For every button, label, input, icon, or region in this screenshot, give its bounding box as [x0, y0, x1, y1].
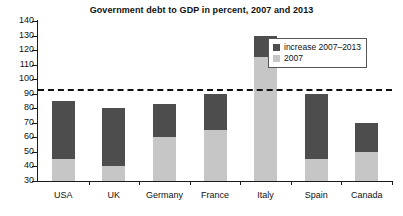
bar-segment-increase [52, 101, 75, 159]
chart-title: Government debt to GDP in percent, 2007 … [0, 5, 403, 15]
x-axis-label-germany: Germany [146, 190, 183, 200]
legend-item-label: 2007 [284, 53, 303, 64]
x-axis-line [37, 181, 393, 182]
x-axis-tick-mark [341, 181, 342, 185]
y-axis-tick-mark [32, 166, 37, 167]
y-axis-tick-label: 120 [0, 44, 34, 54]
y-axis-tick-label: 140 [0, 15, 34, 25]
y-axis-tick-mark [32, 21, 37, 22]
x-axis-tick-mark [190, 181, 191, 185]
y-axis-tick-label: 40 [0, 160, 34, 170]
bar-usa [52, 101, 75, 181]
bar-segment-increase [102, 108, 125, 166]
y-axis-tick-label: 90 [0, 88, 34, 98]
y-axis-tick-label: 130 [0, 30, 34, 40]
y-axis-tick-label: 100 [0, 73, 34, 83]
bar-segment-2007 [204, 130, 227, 181]
bar-segment-increase [305, 94, 328, 159]
bar-germany [153, 104, 176, 181]
bar-canada [355, 123, 378, 181]
y-axis-tick-mark [32, 65, 37, 66]
x-axis-label-canada: Canada [351, 190, 383, 200]
bar-france [204, 94, 227, 181]
y-axis-tick-label: 80 [0, 102, 34, 112]
bar-segment-2007 [153, 137, 176, 181]
x-axis-tick-mark [89, 181, 90, 185]
bar-segment-2007 [355, 152, 378, 181]
x-axis-label-usa: USA [54, 190, 73, 200]
legend-item-label: increase 2007–2013 [284, 42, 361, 53]
y-axis-tick-mark [32, 181, 37, 182]
legend-swatch-icon [273, 44, 280, 51]
x-axis-label-spain: Spain [305, 190, 328, 200]
y-axis-tick-mark [32, 108, 37, 109]
x-axis-tick-mark [291, 181, 292, 185]
y-axis-tick-label: 30 [0, 175, 34, 185]
bar-uk [102, 108, 125, 181]
bar-segment-2007 [52, 159, 75, 181]
legend-item: 2007 [273, 53, 361, 64]
y-axis-tick-label: 60 [0, 131, 34, 141]
x-axis-tick-mark [392, 181, 393, 185]
y-axis-tick-label: 110 [0, 59, 34, 69]
y-axis-tick-mark [32, 152, 37, 153]
y-axis-tick-label: 50 [0, 146, 34, 156]
legend-item: increase 2007–2013 [273, 42, 361, 53]
x-axis-label-uk: UK [108, 190, 121, 200]
chart-container: Government debt to GDP in percent, 2007 … [0, 0, 403, 216]
bar-segment-increase [355, 123, 378, 152]
y-axis-tick-mark [32, 50, 37, 51]
bar-segment-increase [153, 104, 176, 137]
bar-spain [305, 94, 328, 181]
bar-segment-2007 [102, 166, 125, 181]
y-axis-tick-mark [32, 79, 37, 80]
y-axis-tick-mark [32, 94, 37, 95]
chart-legend: increase 2007–20132007 [268, 38, 367, 68]
legend-swatch-icon [273, 55, 280, 62]
bar-segment-2007 [305, 159, 328, 181]
bar-segment-2007 [254, 57, 277, 181]
y-axis-tick-label: 70 [0, 117, 34, 127]
bar-segment-increase [204, 94, 227, 130]
y-axis-tick-mark [32, 123, 37, 124]
x-axis-label-france: France [201, 190, 229, 200]
threshold-reference-line [38, 89, 392, 91]
x-axis-tick-mark [240, 181, 241, 185]
y-axis-tick-mark [32, 137, 37, 138]
y-axis-tick-mark [32, 36, 37, 37]
x-axis-label-italy: Italy [257, 190, 274, 200]
x-axis-tick-mark [139, 181, 140, 185]
